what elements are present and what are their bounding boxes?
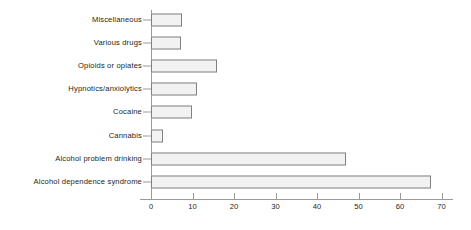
x-tick-mark <box>400 193 401 199</box>
category-label: Alcohol problem drinking <box>55 155 142 163</box>
category-tick-mark <box>143 42 151 43</box>
x-tick-mark <box>234 193 235 199</box>
category-label: Cocaine <box>113 109 142 117</box>
x-tick-label: 50 <box>354 203 362 211</box>
bar-chart-figure: MiscellaneousVarious drugsOpioids or opi… <box>0 0 471 230</box>
category-tick-mark <box>143 112 151 113</box>
x-tick-mark <box>193 193 194 199</box>
x-tick-label: 20 <box>230 203 238 211</box>
category-tick-mark <box>143 181 151 182</box>
x-tick-mark <box>151 193 152 199</box>
x-tick-label: 40 <box>313 203 321 211</box>
bar <box>151 152 346 165</box>
x-tick-label: 70 <box>437 203 445 211</box>
x-tick-label: 0 <box>149 203 153 211</box>
category-tick-mark <box>143 65 151 66</box>
x-tick-label: 60 <box>396 203 404 211</box>
x-tick-label: 10 <box>188 203 196 211</box>
category-label: Opioids or opiates <box>78 62 142 70</box>
category-label: Miscellaneous <box>92 16 142 24</box>
x-tick-label: 30 <box>271 203 279 211</box>
category-tick-mark <box>143 135 151 136</box>
x-axis-spine <box>140 199 453 200</box>
category-label: Cannabis <box>109 132 142 140</box>
bar <box>151 83 197 96</box>
category-tick-mark <box>143 158 151 159</box>
bar <box>151 175 431 188</box>
x-tick-mark <box>359 193 360 199</box>
category-label: Hypnotics/anxiolytics <box>68 85 142 93</box>
category-tick-mark <box>143 89 151 90</box>
x-tick-mark <box>276 193 277 199</box>
plot-area: MiscellaneousVarious drugsOpioids or opi… <box>0 0 471 230</box>
bar <box>151 129 163 142</box>
x-tick-mark <box>442 193 443 199</box>
category-label: Alcohol dependence syndrome <box>34 178 142 186</box>
bar <box>151 106 192 119</box>
category-tick-mark <box>143 19 151 20</box>
x-tick-mark <box>317 193 318 199</box>
bar <box>151 59 217 72</box>
bar <box>151 36 181 49</box>
category-label: Various drugs <box>94 39 142 47</box>
bar <box>151 13 182 26</box>
